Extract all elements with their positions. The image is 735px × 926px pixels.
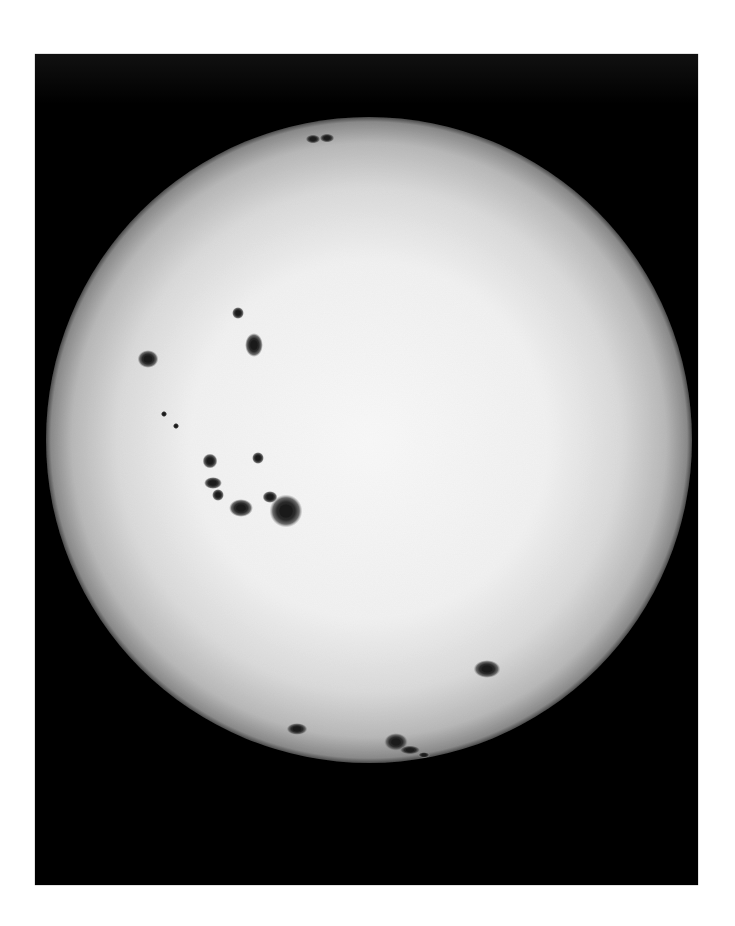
sunspot-umbra <box>267 495 273 500</box>
sunspot-umbra <box>207 458 213 464</box>
sunspot-umbra <box>324 136 330 140</box>
solar-disk <box>46 117 692 763</box>
sunspot-umbra <box>175 425 177 427</box>
sunspot-umbra <box>256 456 261 461</box>
sunspot-umbra <box>406 748 414 752</box>
sunspot-umbra <box>482 665 493 672</box>
sunspot-umbra <box>209 481 216 486</box>
solar-image-frame: Full-disk photograph of the Sun showing … <box>35 54 698 885</box>
sunspot-umbra <box>236 504 246 511</box>
sunspot-umbra <box>279 504 292 517</box>
sunspot-umbra <box>216 493 221 498</box>
sun-photograph <box>35 54 698 885</box>
sunspot-umbra <box>144 355 152 362</box>
sunspot-umbra <box>250 340 257 350</box>
sunspot-umbra <box>163 413 165 415</box>
sunspot-umbra <box>391 738 401 745</box>
sunspot-umbra <box>310 137 316 141</box>
sunspot-umbra <box>422 754 427 756</box>
sunspot-umbra <box>293 727 301 732</box>
frame-top-noise <box>35 54 698 104</box>
sunspot-umbra <box>236 311 241 316</box>
